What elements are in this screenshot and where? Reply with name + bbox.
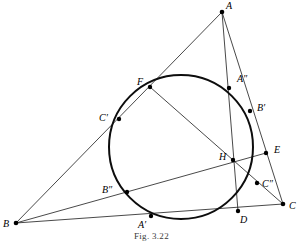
label-F: F <box>136 76 144 87</box>
point-H <box>231 158 235 162</box>
point-B <box>14 221 19 226</box>
conic-circle <box>109 75 253 219</box>
point-C-prime <box>117 117 121 121</box>
geometry-diagram: A B C F C′ B″ A′ D C″ E B′ A″ H <box>0 0 303 242</box>
point-F <box>148 85 152 89</box>
segment-cevian-AD <box>222 12 238 211</box>
point-B-prime <box>248 109 252 113</box>
point-C <box>281 202 286 207</box>
segment-side-CA <box>222 12 283 204</box>
point-C-double-prime <box>255 181 259 185</box>
label-A-prime: A′ <box>137 219 147 230</box>
label-H: H <box>218 151 227 162</box>
point-A-prime <box>149 214 153 218</box>
point-A-double-prime <box>227 86 231 90</box>
segment-cevian-BE <box>16 153 266 223</box>
label-C: C <box>289 200 296 211</box>
label-B-prime: B′ <box>257 102 266 113</box>
label-A-double-prime: A″ <box>236 73 248 84</box>
segment-group <box>16 12 283 223</box>
point-group <box>14 10 286 226</box>
label-B-double-prime: B″ <box>102 184 113 195</box>
figure-container: A B C F C′ B″ A′ D C″ E B′ A″ H Fig. 3.2… <box>0 0 303 242</box>
label-B: B <box>3 218 9 229</box>
point-B-double-prime <box>125 190 129 194</box>
point-D <box>236 209 240 213</box>
label-A: A <box>225 0 233 11</box>
label-C-prime: C′ <box>99 112 109 123</box>
label-E: E <box>273 144 280 155</box>
point-E <box>264 151 268 155</box>
label-D: D <box>239 214 248 225</box>
label-C-double-prime: C″ <box>262 178 274 189</box>
figure-caption: Fig. 3.22 <box>0 231 303 242</box>
label-group: A B C F C′ B″ A′ D C″ E B′ A″ H <box>3 0 296 230</box>
point-A <box>220 10 225 15</box>
